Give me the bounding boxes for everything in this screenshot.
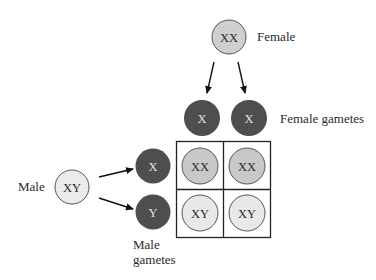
- offspring-genotype: XY: [238, 207, 256, 221]
- female-gamete-2: X: [231, 100, 267, 136]
- female-gamete-2-allele: X: [244, 112, 253, 126]
- offspring-cell-r2c2: XY: [229, 195, 265, 231]
- male-parent: XY: [55, 170, 89, 204]
- arrow-male-to-gamete-x: [99, 169, 133, 177]
- arrow-male-to-gamete-y: [99, 198, 133, 209]
- offspring-genotype: XX: [238, 160, 256, 174]
- male-gamete-x: X: [136, 149, 171, 184]
- female-parent: XX: [212, 20, 246, 54]
- diagram-canvas: XX X X XY X Y: [0, 0, 376, 280]
- female-gametes-label: Female gametes: [280, 111, 364, 126]
- arrow-female-to-gamete-2: [238, 62, 245, 93]
- male-gamete-x-allele: X: [148, 160, 157, 174]
- offspring-cell-r2c1: XY: [182, 195, 218, 231]
- male-gametes-label-line2: gametes: [133, 252, 176, 267]
- arrow-female-to-gamete-1: [207, 62, 214, 93]
- male-gamete-y-allele: Y: [148, 206, 157, 220]
- female-gamete-1-allele: X: [197, 112, 206, 126]
- male-gamete-y: Y: [136, 195, 171, 230]
- female-gamete-1: X: [184, 100, 220, 136]
- offspring-genotype: XX: [191, 160, 209, 174]
- female-genotype: XX: [220, 31, 238, 45]
- male-label: Male: [18, 179, 45, 194]
- male-gametes-label-line1: Male: [133, 237, 160, 252]
- offspring-genotype: XY: [191, 207, 209, 221]
- male-genotype: XY: [63, 181, 81, 195]
- female-label: Female: [257, 29, 295, 44]
- offspring-cell-r1c1: XX: [182, 148, 218, 184]
- offspring-cell-r1c2: XX: [229, 148, 265, 184]
- punnett-square-diagram: XX X X XY X Y: [0, 0, 376, 280]
